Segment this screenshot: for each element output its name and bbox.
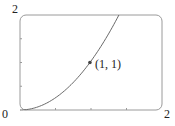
point-marker xyxy=(88,61,92,65)
y-max-label: 2 xyxy=(12,2,18,16)
point-label: (1, 1) xyxy=(95,57,121,71)
origin-label: 0 xyxy=(2,107,8,121)
x-max-label: 2 xyxy=(164,107,170,121)
chart: (1, 1) 2 0 2 xyxy=(0,0,175,126)
